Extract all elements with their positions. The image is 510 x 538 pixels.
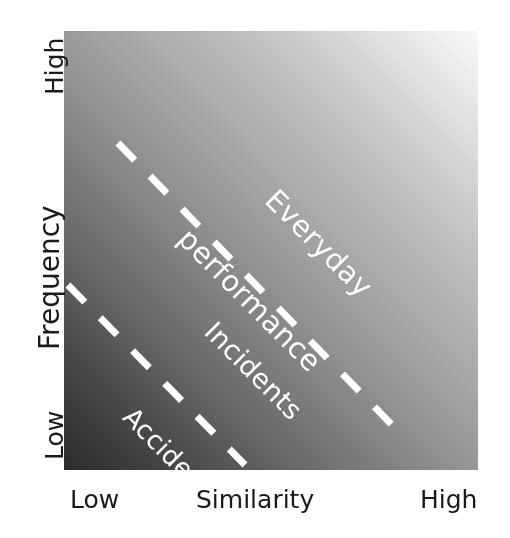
y-axis-low-label: Low [40,411,69,460]
y-axis-title: Frequency [33,205,66,350]
region-label-everyday-performance: Everyday performance [155,143,431,419]
plot-area: Everyday performance Incidents Accidents [64,31,478,470]
x-axis-high-label: High [420,485,477,514]
region-label-everyday-line1: Everyday [259,185,389,315]
region-label-accidents: Accidents [118,403,227,470]
x-axis-title: Similarity [196,485,314,514]
x-axis-low-label: Low [70,485,119,514]
y-axis-high-label: High [40,38,69,95]
figure-root: Everyday performance Incidents Accidents… [0,0,510,538]
